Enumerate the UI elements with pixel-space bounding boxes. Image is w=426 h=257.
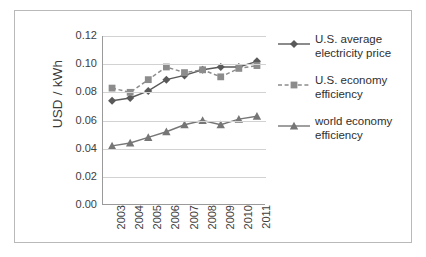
data-point-marker [162,128,170,136]
data-point-marker [253,112,261,120]
legend-item-3[interactable]: world economyefficiency [277,115,419,145]
data-point-marker [235,65,242,72]
x-tick-label: 2005 [151,205,163,251]
legend-marker-diamond-icon [277,36,311,48]
x-tick-label: 2009 [224,205,236,251]
legend-label-line1: U.S. economy [315,74,419,88]
legend-item-1[interactable]: U.S. averageelectricity price [277,33,419,63]
x-tick-label: 2006 [169,205,181,251]
y-tick-label: 0.02 [51,170,97,182]
data-point-marker [162,76,170,84]
y-tick-label: 0.06 [51,114,97,126]
gridline [103,36,266,37]
x-tick-label: 2008 [206,205,218,251]
data-point-marker [199,66,206,73]
legend-item-2[interactable]: U.S. economyefficiency [277,74,419,104]
series-3 [108,112,261,149]
legend-label: U.S. economyefficiency [315,74,419,101]
data-point-marker [108,97,116,105]
x-axis-tick-labels: 200320042005200620072008200920102011 [102,207,265,253]
y-axis-tick-labels: 0.120.100.080.060.040.020.00 [49,36,97,205]
data-point-marker [109,85,116,92]
y-tick-label: 0.00 [51,198,97,210]
data-point-marker [217,73,224,80]
legend-label: U.S. averageelectricity price [315,33,419,60]
x-tick-label: 2003 [115,205,127,251]
legend-label: world economyefficiency [315,115,419,142]
y-tick-label: 0.08 [51,85,97,97]
data-point-marker [291,82,298,89]
y-tick-label: 0.04 [51,142,97,154]
data-point-marker [181,69,188,76]
gridline [103,92,266,93]
gridline [103,177,266,178]
gridline [103,149,266,150]
legend-label-line2: efficiency [315,129,419,143]
x-tick-label: 2007 [188,205,200,251]
legend-label-line1: U.S. average [315,33,419,47]
y-tick-label: 0.10 [51,57,97,69]
x-tick-label: 2010 [242,205,254,251]
x-tick-label: 2004 [133,205,145,251]
legend-label-line1: world economy [315,115,419,129]
data-point-marker [145,76,152,83]
y-tick-label: 0.12 [51,29,97,41]
data-point-marker [290,40,298,48]
gridline [103,64,266,65]
legend-marker-triangle-icon [277,118,311,130]
chart-figure: USD / kWh 0.120.100.080.060.040.020.00 2… [0,0,426,257]
legend-label-line2: efficiency [315,88,419,102]
legend-label-line2: electricity price [315,47,419,61]
data-point-marker [144,87,152,95]
legend-marker-square-icon [277,77,311,89]
x-tick-label: 2011 [260,205,272,251]
chart-frame: USD / kWh 0.120.100.080.060.040.020.00 2… [14,10,412,243]
chart-legend: U.S. averageelectricity priceU.S. econom… [277,33,419,156]
plot-area [102,36,265,205]
gridline [103,121,266,122]
